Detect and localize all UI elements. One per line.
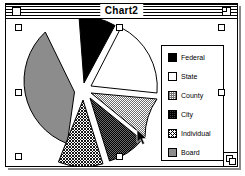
chart-legend[interactable]: Federal State County City Individual [161,45,224,161]
legend-label-individual: Individual [181,129,211,138]
legend-item-state[interactable]: State [168,71,197,81]
legend-label-city: City [181,110,193,119]
legend-swatch-individual-icon [168,129,177,138]
window-title: Chart2 [100,4,143,18]
legend-swatch-county-icon [168,91,177,100]
selection-handle-bottom-center[interactable] [116,153,123,160]
window-shadow [8,168,241,170]
window-shadow-right [239,6,241,170]
legend-label-state: State [181,72,197,81]
legend-label-county: County [181,91,203,100]
zoom-box-icon[interactable] [222,7,231,16]
legend-swatch-federal-icon [168,53,177,62]
legend-swatch-board-icon [168,148,177,157]
selection-handle-middle-right[interactable] [218,89,225,96]
grow-box-icon[interactable] [223,152,237,166]
selection-handle-top-right[interactable] [218,24,225,31]
legend-item-county[interactable]: County [168,90,203,100]
legend-swatch-state-icon [168,72,177,81]
selection-handle-top-center[interactable] [116,24,123,31]
legend-label-federal: Federal [181,53,205,62]
legend-item-federal[interactable]: Federal [168,52,205,62]
close-box-icon[interactable] [12,7,21,16]
legend-label-board: Board [181,148,200,157]
screen: Chart2 [0,0,245,176]
pie-slice-board[interactable] [24,32,74,144]
selection-handle-middle-left[interactable] [15,89,22,96]
window-content: Federal State County City Individual [6,19,237,166]
selection-handle-top-left[interactable] [15,24,22,31]
legend-item-individual[interactable]: Individual [168,128,211,138]
selection-handle-bottom-left[interactable] [15,153,22,160]
legend-item-city[interactable]: City [168,109,193,119]
legend-item-board[interactable]: Board [168,147,200,157]
chart-window: Chart2 [5,3,238,167]
legend-swatch-city-icon [168,110,177,119]
window-title-bar[interactable]: Chart2 [6,4,237,19]
